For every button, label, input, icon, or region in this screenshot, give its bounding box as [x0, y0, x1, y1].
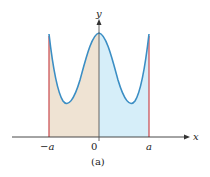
x-axis-label: x — [193, 131, 199, 142]
plot-svg: y x −a 0 a (a) — [0, 0, 210, 177]
tick-label-a: a — [146, 141, 152, 152]
figure-caption: (a) — [91, 156, 105, 167]
y-axis-label: y — [95, 8, 102, 19]
even-function-figure: y x −a 0 a (a) — [0, 0, 210, 177]
y-axis-arrow-icon — [97, 19, 102, 25]
tick-label-origin: 0 — [91, 141, 97, 152]
tick-label-neg-a: −a — [40, 141, 54, 152]
x-axis-arrow-icon — [184, 135, 190, 140]
